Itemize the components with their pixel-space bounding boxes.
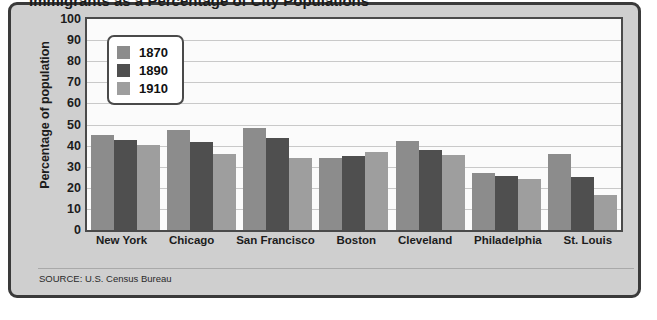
bar-group [243,19,312,230]
x-tick-label: Cleveland [398,234,452,246]
y-tick-label: 70 [67,75,81,89]
legend-label: 1870 [139,45,168,60]
x-tick-label: Boston [337,234,377,246]
x-axis-tick-labels: New YorkChicagoSan FranciscoBostonClevel… [85,234,623,256]
bar [342,156,365,230]
chart-legend: 187018901910 [107,35,184,105]
legend-swatch [117,64,130,77]
source-note: SOURCE: U.S. Census Bureau [39,273,172,284]
y-tick-label: 0 [74,223,81,237]
bar [396,141,419,230]
bar [167,130,190,230]
legend-item: 1890 [117,61,168,79]
bar [243,128,266,230]
chart-panel: Immigrants as a Percentage of City Popul… [8,2,641,298]
chart-screenshot: Immigrants as a Percentage of City Popul… [0,0,657,320]
bar [365,152,388,230]
y-tick-label: 20 [67,181,81,195]
y-tick-label: 50 [67,118,81,132]
bar [266,138,289,230]
legend-label: 1910 [139,81,168,96]
legend-item: 1910 [117,79,168,97]
bar [91,135,114,230]
y-tick-label: 100 [60,12,81,26]
bar [319,158,342,230]
bar-group [396,19,465,230]
bar [190,142,213,230]
legend-label: 1890 [139,63,168,78]
bar [442,155,465,230]
bar-group [472,19,541,230]
bar [518,179,541,230]
bar [289,158,312,230]
x-tick-label: San Francisco [236,234,315,246]
bar [495,176,518,230]
y-tick-label: 80 [67,54,81,68]
x-tick-label: Chicago [169,234,214,246]
legend-item: 1870 [117,43,168,61]
bar [419,150,442,230]
y-tick-label: 30 [67,160,81,174]
bar [548,154,571,230]
source-divider [38,268,634,269]
legend-swatch [117,46,130,59]
y-tick-label: 60 [67,96,81,110]
bar [213,154,236,230]
y-tick-label: 90 [67,33,81,47]
bar [114,140,137,230]
chart-title: Immigrants as a Percentage of City Popul… [29,0,369,9]
bar [594,195,617,230]
y-axis-tick-labels: 1009080706050403020100 [47,17,81,232]
x-tick-label: New York [96,234,147,246]
legend-swatch [117,82,130,95]
x-tick-label: Philadelphia [474,234,542,246]
y-tick-label: 40 [67,139,81,153]
bar [137,145,160,230]
bar-group [548,19,617,230]
bar [571,177,594,230]
y-tick-label: 10 [67,202,81,216]
bar-group [319,19,388,230]
x-tick-label: St. Louis [564,234,613,246]
bar [472,173,495,230]
